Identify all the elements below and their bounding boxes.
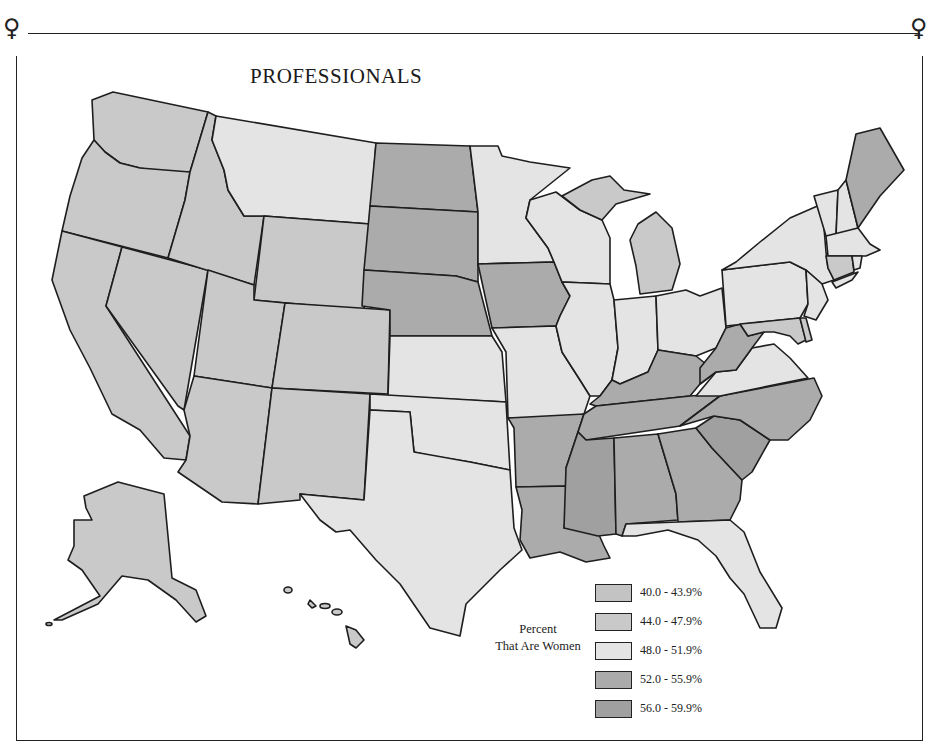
state-KS — [388, 336, 506, 402]
state-PA — [722, 262, 808, 326]
us-choropleth-map — [0, 0, 928, 746]
legend-swatch — [595, 671, 632, 689]
state-MI — [630, 212, 680, 294]
state-OH — [656, 288, 726, 356]
legend-title-line2: That Are Women — [486, 638, 590, 655]
state-AZ — [178, 376, 272, 504]
legend-label: 40.0 - 43.9% — [640, 585, 702, 600]
state-ME — [846, 128, 904, 228]
legend-swatch — [595, 584, 632, 602]
state-AK — [54, 482, 206, 622]
legend-label: 52.0 - 55.9% — [640, 672, 702, 687]
state-NM — [258, 388, 370, 504]
state-IA — [478, 262, 570, 328]
state-AK-island — [46, 623, 52, 626]
state-RI — [852, 256, 862, 270]
state-FL — [622, 520, 782, 628]
state-ND — [370, 143, 478, 212]
legend-title-line1: Percent — [486, 621, 590, 638]
state-CO — [272, 303, 390, 394]
state-HI — [284, 587, 364, 648]
legend-swatch — [595, 642, 632, 660]
legend-swatch — [595, 613, 632, 631]
legend-label: 56.0 - 59.9% — [640, 701, 702, 716]
legend-label: 44.0 - 47.9% — [640, 614, 702, 629]
legend-label: 48.0 - 51.9% — [640, 643, 702, 658]
legend-title: Percent That Are Women — [486, 621, 590, 655]
legend-swatch — [595, 700, 632, 718]
state-WY — [254, 216, 370, 310]
